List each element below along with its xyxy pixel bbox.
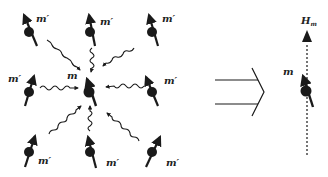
central-spin-label: m <box>67 70 78 81</box>
spin-middle-right: m′ <box>146 75 178 106</box>
spin-label: m′ <box>100 16 114 27</box>
mean-field-spin: m <box>283 66 313 107</box>
wavy-arrow-icon <box>47 40 80 70</box>
spin-label: m′ <box>36 13 50 24</box>
spin-bottom-right: m′ <box>146 137 180 168</box>
right-panel: Hm m <box>283 15 317 155</box>
spin-label: m′ <box>8 73 22 84</box>
field-label: Hm <box>300 15 317 27</box>
wavy-arrow-icon <box>103 48 134 66</box>
spin-label: m′ <box>166 157 180 168</box>
wavy-arrow-icon <box>88 106 92 131</box>
field-arrowhead-icon <box>302 30 312 42</box>
wavy-arrow-icon <box>106 84 144 88</box>
spin-bottom-center: m′ <box>85 137 120 168</box>
mean-field-spin-label: m <box>283 66 294 77</box>
spin-label: m′ <box>162 13 176 24</box>
spin-label: m′ <box>106 157 120 168</box>
spin-label: m′ <box>38 155 52 166</box>
wavy-arrow-icon <box>49 106 81 134</box>
spin-middle-left: m′ <box>8 73 34 106</box>
implies-arrow-icon <box>215 68 264 116</box>
mean-field-diagram: m′ m′ m′ m′ m′ m′ <box>0 0 328 177</box>
spin-bottom-left: m′ <box>24 136 52 167</box>
spin-top-center: m′ <box>85 15 114 46</box>
wavy-arrow-icon <box>40 86 78 90</box>
spin-top-left: m′ <box>24 13 50 46</box>
left-panel: m′ m′ m′ m′ m′ m′ <box>8 13 180 168</box>
wavy-arrow-icon <box>107 113 139 141</box>
wavy-arrow-icon <box>90 48 94 72</box>
spin-top-right: m′ <box>147 13 176 46</box>
spin-label: m′ <box>164 75 178 86</box>
